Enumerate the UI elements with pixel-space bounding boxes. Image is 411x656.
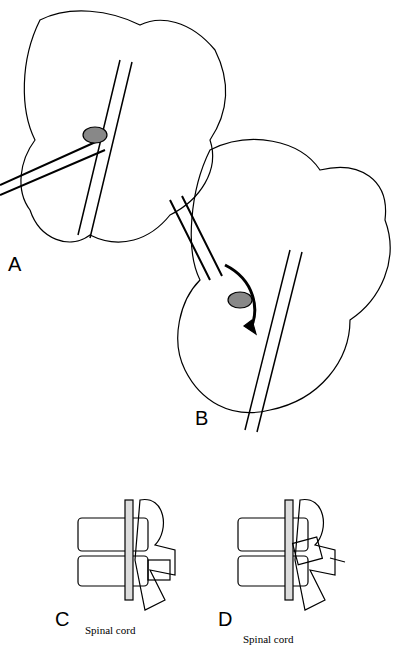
panel-c-drawing: [78, 500, 175, 610]
vertebra-a-outline: [21, 11, 226, 242]
instrument-b: [170, 196, 222, 280]
facet-a: [83, 127, 107, 143]
caption-spinal-cord-d: Spinal cord: [243, 633, 293, 645]
caption-spinal-cord-c: Spinal cord: [85, 624, 135, 636]
facet-b: [228, 292, 252, 308]
rod-b: [245, 250, 302, 432]
panel-label-a: A: [8, 253, 21, 276]
panel-label-b: B: [195, 407, 208, 430]
illustration: [0, 0, 411, 656]
panel-d-drawing: [238, 500, 345, 610]
panel-label-d: D: [218, 608, 232, 631]
rod-a: [78, 60, 132, 238]
panel-label-c: C: [55, 608, 69, 631]
